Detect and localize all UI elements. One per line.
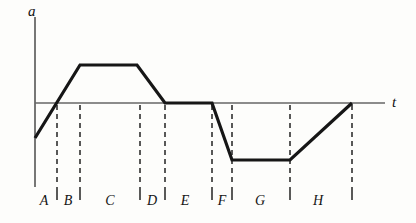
acceleration-time-graph-figure: a t ABCDEFGH: [0, 0, 416, 223]
horizontal-axis-label: t: [392, 95, 396, 110]
interval-label-a: A: [40, 194, 49, 208]
interval-label-row: ABCDEFGH: [0, 186, 416, 210]
acceleration-curve: [35, 65, 352, 160]
interval-label-g: G: [255, 194, 265, 208]
interval-label-d: D: [147, 194, 157, 208]
interval-label-e: E: [181, 194, 190, 208]
vertical-axis-label: a: [28, 4, 36, 19]
interval-label-h: H: [313, 194, 323, 208]
interval-label-f: F: [218, 194, 227, 208]
interval-label-b: B: [64, 194, 73, 208]
interval-label-c: C: [105, 194, 114, 208]
